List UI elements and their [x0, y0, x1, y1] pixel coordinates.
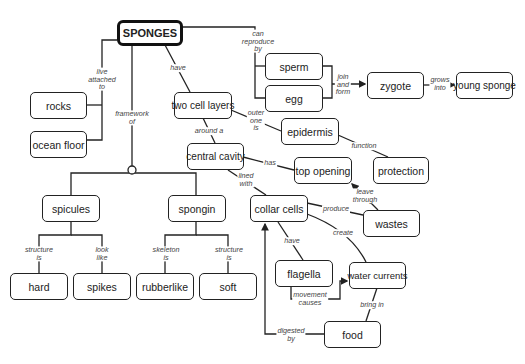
link-label-create: create [332, 229, 354, 237]
link-label-bring-in: bring in [359, 301, 385, 309]
node-epidermis[interactable]: epidermis [281, 118, 339, 145]
link-label-structure-is-soft: structure is [214, 246, 244, 261]
node-collar-cells[interactable]: collar cells [250, 195, 308, 222]
link-label-around-a: around a [194, 127, 224, 135]
link-label-leave-through: leave through [352, 188, 378, 203]
node-top-opening[interactable]: top opening [294, 157, 352, 184]
link-label-live-attached-to: live attached to [87, 68, 117, 91]
link-label-have-flagella: have [283, 237, 301, 245]
link-label-skeleton-is: skeleton is [152, 246, 181, 261]
link-label-lined-with: lined with [237, 172, 254, 187]
link-label-movement-causes: movement causes [292, 291, 328, 306]
node-egg[interactable]: egg [265, 85, 323, 112]
link-label-join-and-form: join and form [335, 73, 351, 96]
link-label-outer-one-is: outer one is [247, 109, 265, 132]
node-young-sponge[interactable]: young sponge [456, 72, 513, 99]
link-label-has: has [263, 159, 277, 167]
node-water-currents[interactable]: water currents [349, 262, 406, 289]
link-label-look-like: look like [94, 246, 109, 261]
link-label-structure-is-hard: structure is [24, 246, 54, 261]
node-hard[interactable]: hard [10, 273, 68, 300]
node-rocks[interactable]: rocks [30, 92, 87, 119]
node-sponges[interactable]: SPONGES [117, 20, 183, 46]
node-rubberlike[interactable]: rubberlike [136, 273, 194, 300]
link-label-grows-into: grows into [429, 76, 450, 91]
node-soft[interactable]: soft [199, 273, 257, 300]
node-protection[interactable]: protection [373, 157, 429, 184]
node-central-cavity[interactable]: central cavity [187, 143, 244, 170]
link-label-can-reproduce-by: can reproduce by [241, 30, 275, 53]
node-flagella[interactable]: flagella [275, 260, 333, 287]
node-wastes[interactable]: wastes [363, 210, 420, 237]
connector-lines [0, 0, 525, 364]
node-two-cell-layers[interactable]: two cell layers [174, 92, 232, 119]
node-sperm[interactable]: sperm [265, 53, 323, 80]
node-spicules[interactable]: spicules [42, 195, 100, 222]
node-ocean-floor[interactable]: ocean floor [30, 131, 87, 158]
link-label-produce: produce [322, 205, 350, 213]
link-label-framework-of: framework of [114, 110, 150, 125]
link-label-digested-by: digested by [276, 327, 305, 342]
link-label-have: have [169, 64, 187, 72]
node-food[interactable]: food [324, 321, 381, 348]
node-zygote[interactable]: zygote [367, 72, 424, 99]
node-spikes[interactable]: spikes [73, 273, 131, 300]
node-spongin[interactable]: spongin [168, 195, 226, 222]
junction-node [128, 166, 136, 174]
link-label-function: function [350, 142, 377, 150]
